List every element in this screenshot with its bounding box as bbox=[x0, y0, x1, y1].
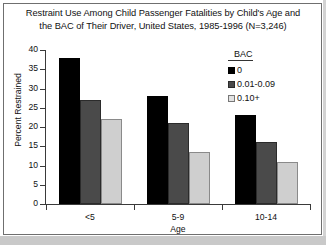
x-axis-title: Age bbox=[46, 224, 310, 234]
y-tick bbox=[40, 185, 45, 186]
legend-swatch-icon bbox=[228, 81, 235, 88]
y-tick bbox=[40, 89, 45, 90]
bar bbox=[235, 115, 256, 204]
y-tick-label: 0 bbox=[14, 199, 38, 208]
legend-label: 0.10+ bbox=[237, 92, 260, 105]
legend-swatch-icon bbox=[228, 95, 235, 102]
bar bbox=[80, 100, 101, 204]
bar bbox=[256, 142, 277, 204]
y-tick bbox=[40, 108, 45, 109]
y-tick bbox=[40, 146, 45, 147]
legend-item[interactable]: 0 bbox=[228, 64, 312, 77]
x-tick-label: 5-9 bbox=[143, 212, 213, 222]
x-tick bbox=[222, 205, 223, 210]
figure-bottom-shadow bbox=[0, 236, 326, 245]
legend-rows: 00.01-0.090.10+ bbox=[228, 64, 312, 105]
y-tick bbox=[40, 166, 45, 167]
x-axis-line bbox=[45, 204, 311, 205]
y-tick bbox=[40, 127, 45, 128]
legend-label: 0.01-0.09 bbox=[237, 78, 275, 91]
x-tick bbox=[46, 205, 47, 210]
legend-item[interactable]: 0.10+ bbox=[228, 92, 312, 105]
bar bbox=[101, 119, 122, 204]
legend-swatch-icon bbox=[228, 67, 235, 74]
y-tick bbox=[40, 50, 45, 51]
legend-title: BAC bbox=[228, 49, 253, 61]
bar bbox=[168, 123, 189, 204]
chart-title-line-1: Restraint Use Among Child Passenger Fata… bbox=[26, 8, 300, 18]
legend-item[interactable]: 0.01-0.09 bbox=[228, 78, 312, 91]
legend-label: 0 bbox=[237, 64, 242, 77]
bar bbox=[189, 152, 210, 204]
x-tick-label: 10-14 bbox=[231, 212, 301, 222]
chart-figure: Restraint Use Among Child Passenger Fata… bbox=[0, 0, 326, 245]
x-tick bbox=[310, 205, 311, 210]
bar bbox=[147, 96, 168, 204]
x-tick-label: <5 bbox=[55, 212, 125, 222]
chart-title-line-2: the BAC of Their Driver, United States, … bbox=[10, 20, 316, 33]
legend: BAC 00.01-0.090.10+ bbox=[228, 49, 312, 106]
y-tick bbox=[40, 69, 45, 70]
x-tick bbox=[134, 205, 135, 210]
y-axis-title: Percent Restrained bbox=[13, 50, 23, 170]
bar bbox=[59, 58, 80, 204]
y-tick-label: 5 bbox=[14, 180, 38, 189]
y-tick bbox=[40, 204, 45, 205]
chart-title: Restraint Use Among Child Passenger Fata… bbox=[10, 7, 316, 32]
bar bbox=[277, 162, 298, 204]
